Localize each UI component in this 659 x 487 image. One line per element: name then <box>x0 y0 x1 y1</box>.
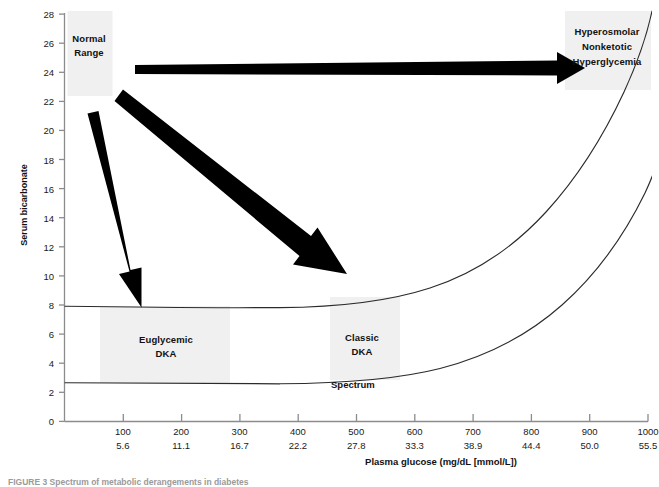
figure-caption: FIGURE 3 Spectrum of metabolic derangeme… <box>8 477 648 487</box>
y-axis-tick-label: 4 <box>32 358 54 369</box>
arrow-to-hyperosmolar <box>135 52 585 84</box>
zone-label-hyperosmolar: Hyperosmolar Nonketotic Hyperglycemia <box>561 24 653 69</box>
y-axis-tick-label: 28 <box>32 9 54 20</box>
zone-label-classic-dka-line1: Classic <box>326 331 398 345</box>
x-axis-tick-label-mmol: 16.7 <box>230 440 249 451</box>
x-axis-tick-label-mmol: 55.5 <box>639 440 658 451</box>
x-axis-tick-label-mmol: 22.2 <box>289 440 308 451</box>
zone-label-classic-dka: Classic DKA <box>326 331 398 358</box>
x-axis-tick-label-mgdl: 1000 <box>637 426 658 437</box>
y-axis-ticks <box>59 14 65 421</box>
x-axis-title: Plasma glucose (mg/dL [mmol/L]) <box>0 456 656 467</box>
x-axis-tick-label-mmol: 50.0 <box>580 440 599 451</box>
curve-label-spectrum: Spectrum <box>331 379 375 390</box>
y-axis-tick-label: 20 <box>32 125 54 136</box>
y-axis-tick-label: 18 <box>32 154 54 165</box>
zone-label-hyperosmolar-line1: Hyperosmolar <box>561 24 653 39</box>
zone-label-normal-range-line2: Range <box>64 46 114 60</box>
zone-label-normal-range-line1: Normal <box>64 32 114 46</box>
y-axis-title: Serum bicarbonate <box>19 145 29 265</box>
zone-label-euglycemic-dka-line2: DKA <box>107 347 225 361</box>
zone-label-euglycemic-dka: Euglycemic DKA <box>107 333 225 360</box>
x-axis-ticks <box>123 414 648 422</box>
x-axis-tick-label-mgdl: 200 <box>173 426 189 437</box>
y-axis-tick-label: 16 <box>32 183 54 194</box>
x-axis-tick-label-mgdl: 800 <box>523 426 539 437</box>
y-axis-tick-label: 24 <box>32 67 54 78</box>
zone-label-normal-range: Normal Range <box>64 32 114 59</box>
x-axis-tick-label-mmol: 33.3 <box>405 440 424 451</box>
x-axis-tick-label-mgdl: 900 <box>582 426 598 437</box>
x-axis-tick-labels-mgdl: 1002003004005006007008009001000 <box>0 426 656 439</box>
x-axis-tick-label-mgdl: 500 <box>348 426 364 437</box>
zone-label-hyperosmolar-line3: Hyperglycemia <box>561 54 653 69</box>
arrow-to-classic-dka <box>115 90 348 275</box>
x-axis-tick-label-mgdl: 400 <box>290 426 306 437</box>
x-axis-tick-label-mmol: 38.9 <box>464 440 483 451</box>
arrow-to-euglycemic-dka <box>88 111 142 308</box>
y-axis-tick-label: 12 <box>32 241 54 252</box>
x-axis-tick-label-mgdl: 700 <box>465 426 481 437</box>
y-axis-tick-label: 8 <box>32 300 54 311</box>
x-axis-tick-label-mmol: 27.8 <box>347 440 366 451</box>
x-axis-title-text: Plasma glucose (mg/dL [mmol/L]) <box>365 456 517 467</box>
x-axis-tick-label-mgdl: 300 <box>232 426 248 437</box>
zone-label-euglycemic-dka-line1: Euglycemic <box>107 333 225 347</box>
x-axis-tick-label-mmol: 44.4 <box>522 440 541 451</box>
y-axis-tick-label: 10 <box>32 270 54 281</box>
y-axis-tick-label: 22 <box>32 96 54 107</box>
x-axis-tick-label-mmol: 5.6 <box>116 440 129 451</box>
y-axis-tick-label: 14 <box>32 212 54 223</box>
x-axis-tick-label-mmol: 11.1 <box>172 440 190 451</box>
x-axis-tick-labels-mmol: 5.611.116.722.227.833.338.944.450.055.5 <box>0 440 656 453</box>
y-axis-tick-label: 6 <box>32 329 54 340</box>
y-axis-tick-label: 26 <box>32 38 54 49</box>
zone-label-hyperosmolar-line2: Nonketotic <box>561 39 653 54</box>
zone-label-classic-dka-line2: DKA <box>326 345 398 359</box>
x-axis-tick-label-mgdl: 100 <box>115 426 131 437</box>
x-axis-tick-label-mgdl: 600 <box>407 426 423 437</box>
y-axis-tick-label: 2 <box>32 387 54 398</box>
